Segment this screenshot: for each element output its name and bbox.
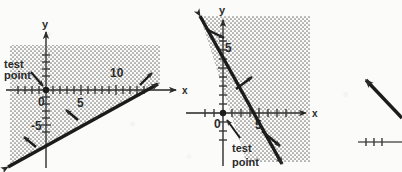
inequality-graph-cropped	[340, 0, 402, 172]
test-point-label-line1: test	[232, 142, 252, 154]
shaded-region	[10, 45, 160, 170]
test-point-label-line2: point	[4, 69, 31, 81]
inequality-graph-right: y x 0 5 5	[180, 0, 340, 172]
y-tick-label-neg5: -5	[31, 119, 42, 133]
test-point-dot	[43, 87, 49, 93]
y-tick-label-5: 5	[225, 41, 232, 55]
inequality-graph-left: y x 0 5 10 -	[0, 0, 200, 172]
y-axis-label: y	[219, 4, 226, 16]
y-axis-label: y	[42, 18, 49, 30]
origin-label: 0	[38, 95, 45, 109]
x-tick-label-10: 10	[110, 66, 124, 80]
boundary-line	[366, 80, 402, 118]
x-axis-label: x	[312, 108, 318, 119]
test-point-label-line2: point	[232, 156, 259, 168]
origin-label: 0	[214, 117, 221, 131]
x-tick-label-5: 5	[77, 96, 84, 110]
test-point-dot	[220, 110, 226, 116]
shaded-region	[198, 14, 312, 164]
